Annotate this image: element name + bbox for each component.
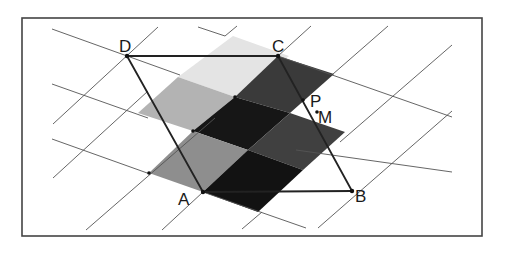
label-point-d: D [119, 37, 131, 56]
point-b-dot [350, 189, 354, 193]
label-point-b: B [355, 187, 366, 206]
vertex-dot [233, 95, 237, 99]
point-a-dot [201, 190, 205, 194]
label-point-m: M [318, 108, 332, 127]
geometry-diagram: DCABPM [0, 0, 509, 253]
side-BA [203, 191, 352, 192]
label-point-a: A [178, 190, 190, 209]
label-point-c: C [272, 37, 284, 56]
vertex-dot [191, 129, 195, 133]
vertex-dot [301, 98, 305, 102]
vertex-dot [147, 171, 151, 175]
